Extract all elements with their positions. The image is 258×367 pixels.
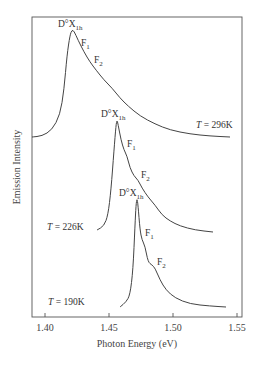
temperature-label: T = 296K: [196, 120, 233, 130]
peak-label: F1: [145, 228, 154, 241]
peak-label: D°X1h: [101, 109, 126, 122]
y-axis-label: Emission Intensity: [11, 130, 22, 205]
spectrum-line: [120, 200, 226, 307]
x-tick-label: 1.50: [164, 322, 182, 333]
peak-label: D°X1h: [119, 188, 144, 201]
temperature-labels: T = 296KT = 226KT = 190K: [47, 120, 233, 307]
x-tick-label: 1.55: [228, 322, 246, 333]
peak-label: F2: [141, 170, 150, 183]
peak-label: F2: [94, 55, 103, 68]
peak-label: D°X1h: [58, 19, 83, 32]
x-axis-label: Photon Energy (eV): [97, 338, 177, 350]
plot-frame: [32, 17, 242, 317]
x-tick-label: 1.40: [36, 322, 54, 333]
x-axis-ticks: 1.401.451.501.55: [36, 313, 246, 333]
temperature-label: T = 226K: [47, 222, 84, 232]
spectrum-line: [97, 121, 213, 232]
x-tick-label: 1.45: [100, 322, 118, 333]
series-lines: [32, 30, 230, 307]
temperature-label: T = 190K: [48, 297, 85, 307]
emission-spectra-chart: 1.401.451.501.55 D°X1hF1F2D°X1hF1F2D°X1h…: [0, 0, 258, 367]
peak-label: F1: [127, 139, 136, 152]
peak-label: F2: [157, 257, 166, 270]
